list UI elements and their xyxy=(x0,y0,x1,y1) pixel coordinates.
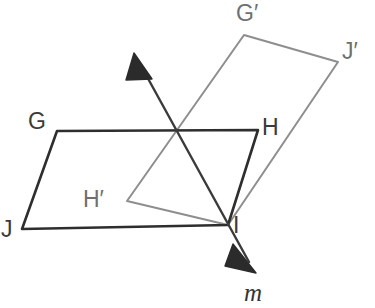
line-of-reflection-m xyxy=(126,53,256,273)
vertex-label-H: H xyxy=(262,116,279,139)
vertex-label-G: G xyxy=(28,110,46,133)
geometry-figure: G H I J G′ H′ J′ m xyxy=(0,0,375,308)
vertex-label-J: J xyxy=(1,218,13,241)
geometry-canvas xyxy=(0,0,375,308)
vertex-label-G-prime: G′ xyxy=(236,2,258,25)
line-m-arrowhead-upper xyxy=(126,53,152,80)
vertex-label-I: I xyxy=(233,214,239,237)
line-label-m: m xyxy=(244,280,262,305)
vertex-label-J-prime: J′ xyxy=(342,40,358,63)
vertex-label-H-prime: H′ xyxy=(83,188,104,211)
